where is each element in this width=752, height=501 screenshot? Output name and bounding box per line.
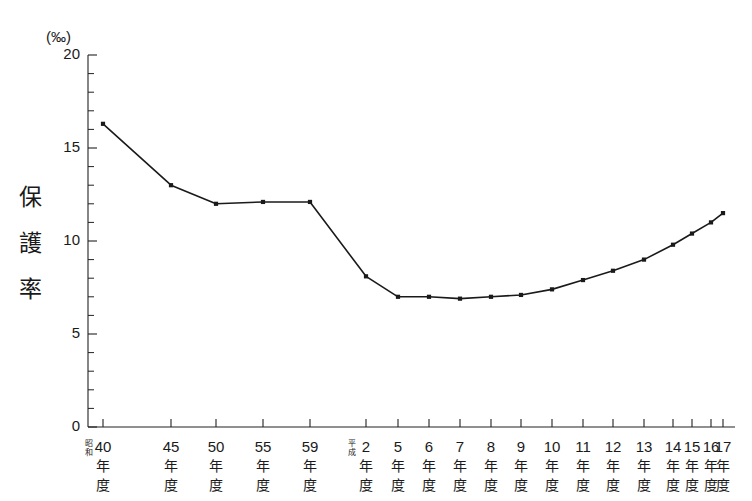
x-tick-number: 6 [425, 438, 433, 455]
x-tick-kanji-do: 度 [545, 477, 559, 493]
x-tick-kanji-do: 度 [576, 477, 590, 493]
x-tick-number: 2 [362, 438, 370, 455]
x-tick-kanji-do: 度 [514, 477, 528, 493]
x-tick-kanji-nen: 年 [96, 458, 110, 474]
y-tick-label: 5 [72, 324, 80, 341]
data-point-marker [101, 122, 105, 126]
x-tick-label-group: 平成2年度 [348, 438, 373, 493]
x-tick-kanji-nen: 年 [391, 458, 405, 474]
data-point-marker [458, 297, 462, 301]
y-tick-label: 20 [63, 45, 80, 62]
y-axis-title-char: 保 [19, 184, 42, 210]
x-tick-kanji-nen: 年 [576, 458, 590, 474]
series-markers [101, 122, 725, 301]
x-tick-kanji-do: 度 [637, 477, 651, 493]
x-tick-label-group: 昭和40年度 [85, 438, 111, 493]
x-tick-number: 12 [605, 438, 622, 455]
x-tick-number: 9 [517, 438, 525, 455]
x-tick-label-group: 15年度 [684, 438, 701, 493]
x-tick-label-group: 10年度 [544, 438, 561, 493]
y-axis-ticks: 05101520 [63, 45, 97, 434]
chart-container: (‰) 保護率 05101520 昭和40年度45年度50年度55年度59年度平… [0, 0, 752, 501]
data-point-marker [611, 269, 615, 273]
series-line-hogoritsu [103, 124, 723, 299]
x-tick-era: 平 [348, 439, 356, 448]
x-tick-kanji-do: 度 [716, 477, 730, 493]
x-tick-number: 8 [487, 438, 495, 455]
x-tick-number: 5 [394, 438, 402, 455]
x-tick-label-group: 55年度 [255, 438, 272, 493]
x-tick-label-group: 8年度 [484, 438, 498, 493]
x-tick-kanji-do: 度 [685, 477, 699, 493]
data-point-marker [690, 231, 694, 235]
data-point-marker [214, 202, 218, 206]
x-tick-kanji-nen: 年 [359, 458, 373, 474]
line-chart: (‰) 保護率 05101520 昭和40年度45年度50年度55年度59年度平… [0, 0, 752, 501]
x-tick-number: 45 [163, 438, 180, 455]
x-tick-label-group: 45年度 [163, 438, 180, 493]
x-tick-era: 和 [85, 448, 93, 457]
x-tick-number: 59 [302, 438, 319, 455]
x-axis-labels: 昭和40年度45年度50年度55年度59年度平成2年度5年度6年度7年度8年度9… [85, 438, 731, 493]
x-tick-kanji-do: 度 [209, 477, 223, 493]
x-tick-kanji-do: 度 [422, 477, 436, 493]
data-point-marker [489, 295, 493, 299]
y-tick-label: 10 [63, 231, 80, 248]
x-tick-number: 11 [575, 438, 591, 455]
x-tick-label-group: 12年度 [605, 438, 622, 493]
x-tick-label-group: 6年度 [422, 438, 436, 493]
x-tick-label-group: 14年度 [665, 438, 682, 493]
x-tick-kanji-nen: 年 [453, 458, 467, 474]
data-point-marker [169, 183, 173, 187]
y-axis-title: 保護率 [19, 184, 42, 302]
x-tick-number: 17 [715, 438, 732, 455]
x-tick-kanji-nen: 年 [637, 458, 651, 474]
x-tick-kanji-nen: 年 [666, 458, 680, 474]
data-point-marker [519, 293, 523, 297]
x-tick-number: 50 [208, 438, 225, 455]
x-tick-label-group: 11年度 [575, 438, 591, 493]
y-unit-label: (‰) [46, 28, 71, 45]
x-tick-label-group: 59年度 [302, 438, 319, 493]
x-tick-kanji-nen: 年 [484, 458, 498, 474]
x-tick-label-group: 13年度 [636, 438, 653, 493]
x-tick-number: 7 [456, 438, 464, 455]
data-point-marker [427, 295, 431, 299]
x-tick-kanji-do: 度 [666, 477, 680, 493]
x-tick-kanji-nen: 年 [716, 458, 730, 474]
data-point-marker [721, 211, 725, 215]
x-tick-kanji-nen: 年 [606, 458, 620, 474]
x-tick-label-group: 50年度 [208, 438, 225, 493]
x-tick-kanji-do: 度 [164, 477, 178, 493]
unit-label-group: (‰) [46, 28, 71, 45]
x-tick-number: 13 [636, 438, 653, 455]
x-tick-kanji-nen: 年 [256, 458, 270, 474]
x-tick-kanji-nen: 年 [514, 458, 528, 474]
x-tick-number: 40 [95, 438, 112, 455]
x-tick-kanji-do: 度 [303, 477, 317, 493]
x-tick-kanji-do: 度 [606, 477, 620, 493]
x-tick-kanji-do: 度 [96, 477, 110, 493]
x-tick-kanji-nen: 年 [303, 458, 317, 474]
x-tick-kanji-nen: 年 [209, 458, 223, 474]
x-tick-kanji-do: 度 [359, 477, 373, 493]
y-axis-title-char: 護 [19, 230, 42, 256]
x-axis-ticks [103, 419, 723, 427]
x-tick-label-group: 5年度 [391, 438, 405, 493]
data-point-marker [364, 274, 368, 278]
data-point-marker [671, 243, 675, 247]
x-tick-kanji-nen: 年 [545, 458, 559, 474]
data-point-marker [308, 200, 312, 204]
data-point-marker [396, 295, 400, 299]
x-tick-number: 15 [684, 438, 701, 455]
y-tick-label: 0 [72, 417, 80, 434]
x-tick-kanji-do: 度 [484, 477, 498, 493]
x-tick-number: 55 [255, 438, 272, 455]
x-tick-era: 昭 [85, 439, 93, 448]
x-tick-kanji-do: 度 [453, 477, 467, 493]
y-tick-label: 15 [63, 138, 80, 155]
y-axis-title-char: 率 [19, 276, 42, 302]
data-point-marker [642, 258, 646, 262]
data-point-marker [709, 220, 713, 224]
x-tick-kanji-do: 度 [256, 477, 270, 493]
